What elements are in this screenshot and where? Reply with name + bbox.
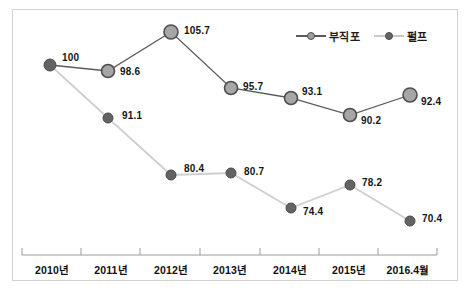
x-axis-label-2013: 2013년 [200, 262, 260, 277]
x-axis-label-2014: 2014년 [260, 262, 320, 277]
line-chart: 100 98.6 105.7 95.7 93.1 90.2 92.4 91.1 … [0, 0, 472, 300]
x-axis-label-2016: 2016.4월 [376, 262, 440, 277]
data-label-pulp-2013: 80.7 [244, 166, 264, 177]
legend-marker-pulp-icon [374, 30, 404, 42]
x-axis [22, 248, 437, 255]
x-axis-label-2011: 2011년 [81, 262, 141, 277]
legend-item-pulp[interactable]: 펄프 [374, 28, 428, 44]
data-label-nonwoven-2014: 93.1 [302, 86, 322, 97]
data-label-nonwoven-2016: 92.4 [421, 96, 441, 107]
chart-legend: 부직포 펄프 [296, 26, 428, 46]
x-axis-label-2015: 2015년 [319, 262, 379, 277]
legend-label-nonwoven: 부직포 [329, 28, 360, 44]
legend-item-nonwoven[interactable]: 부직포 [296, 28, 360, 44]
data-label-nonwoven-2011: 98.6 [120, 66, 140, 77]
data-label-pulp-2015: 78.2 [362, 177, 382, 188]
x-axis-label-2012: 2012년 [141, 262, 201, 277]
legend-marker-nonwoven-icon [296, 30, 326, 42]
x-axis-label-2010: 2010년 [22, 262, 82, 277]
data-label-nonwoven-2012: 105.7 [184, 25, 210, 36]
data-label-pulp-2014: 74.4 [303, 206, 323, 217]
data-label-pulp-2012: 80.4 [184, 163, 204, 174]
data-label-pulp-2011: 91.1 [122, 110, 142, 121]
data-label-nonwoven-2013: 95.7 [243, 81, 263, 92]
data-label-nonwoven-2015: 90.2 [361, 115, 381, 126]
data-label-nonwoven-2010: 100 [62, 52, 79, 63]
data-label-pulp-2016: 70.4 [422, 213, 442, 224]
legend-label-pulp: 펄프 [407, 28, 428, 44]
